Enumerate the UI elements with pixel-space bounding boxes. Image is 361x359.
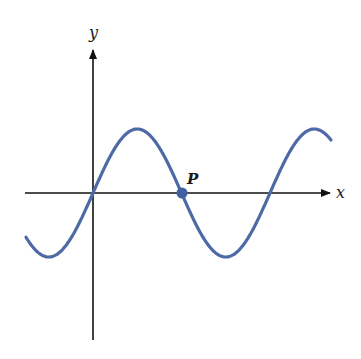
sine-diagram: P x y: [0, 0, 361, 359]
x-axis-label: x: [336, 183, 345, 202]
point-p: [177, 188, 188, 199]
point-p-label: P: [186, 170, 199, 188]
y-axis-label: y: [88, 23, 99, 42]
